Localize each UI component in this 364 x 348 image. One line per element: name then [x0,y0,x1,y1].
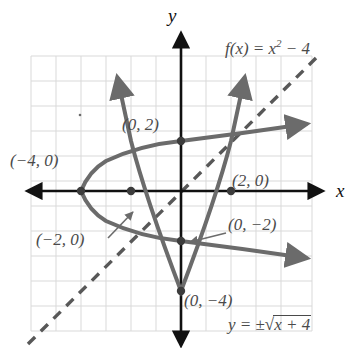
point-0-neg2 [177,237,185,245]
label-neg4-0: (−4, 0) [10,152,58,169]
label-neg2-0: (−2, 0) [36,231,84,248]
inverse-equation-label: y = ±√x + 4 [228,315,311,334]
label-0-2: (0, 2) [122,116,159,133]
label-0-neg4: (0, −4) [184,292,232,309]
line-y-equals-x [28,58,316,344]
grid-lines [31,56,312,331]
function-equation-label: f(x) = x2 − 4 [225,38,310,57]
inverse-equation-prefix: y = ± [228,315,265,334]
point-0-2 [177,137,185,145]
leader-line-0-neg2 [190,233,226,242]
label-2-0: (2, 0) [232,172,269,189]
inverse-equation-radicand: x + 4 [273,315,311,334]
function-equation-tail: − 4 [282,39,310,58]
graph-figure: x y f(x) = x2 − 4 y = ±√x + 4 (−4, 0) (0… [0,0,364,348]
function-equation-main: f(x) = x [225,39,276,58]
point-neg2-0 [127,187,135,195]
label-0-neg2: (0, −2) [228,216,276,233]
y-axis-label: y [168,6,176,25]
x-axis-label: x [336,181,344,200]
scan-speck [79,114,82,117]
point-neg4-0 [77,187,85,195]
